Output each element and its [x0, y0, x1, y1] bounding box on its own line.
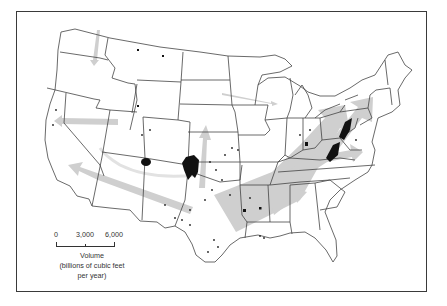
legend-title: Volume	[44, 251, 140, 261]
scale-tick-0: 0	[54, 230, 58, 239]
scale-bar-tick	[114, 242, 115, 247]
state-line	[181, 56, 230, 80]
state-line	[132, 84, 137, 113]
state-line	[175, 170, 188, 226]
production-area-ohio	[305, 142, 308, 146]
state-line	[255, 85, 258, 105]
production-area-louisiana-2	[259, 207, 262, 210]
production-area-wyoming	[137, 105, 139, 107]
scale-tick-labels: 0 3,000 6,000	[44, 230, 154, 240]
state-line	[188, 105, 238, 132]
us-outline	[45, 29, 412, 262]
scale-bar	[44, 241, 154, 247]
state-line	[145, 120, 190, 165]
legend-units-line2: per year)	[44, 271, 140, 281]
lake-michigan	[287, 78, 293, 118]
production-area-montana-2	[162, 55, 164, 57]
state-line	[105, 38, 137, 130]
scale-tick-3000: 3,000	[76, 230, 94, 239]
state-line	[60, 52, 108, 60]
michigan-lp	[295, 85, 312, 118]
state-line	[143, 82, 181, 158]
scale-legend: 0 3,000 6,000 Volume (billions of cubic …	[44, 230, 154, 281]
production-area-colorado-west	[141, 158, 151, 166]
state-line	[96, 100, 137, 112]
lake-ontario	[345, 95, 358, 100]
state-line	[137, 52, 183, 82]
production-area-montana-1	[137, 49, 139, 51]
scale-tick-6000: 6,000	[105, 230, 123, 239]
state-line	[64, 93, 104, 176]
state-line	[315, 180, 345, 210]
production-area-louisiana-1	[243, 209, 246, 212]
state-line	[385, 60, 388, 85]
state-line	[376, 88, 392, 105]
flow-arrow-dakota-lakes	[222, 93, 278, 106]
legend-units-line1: (billions of cubic feet	[44, 261, 140, 271]
state-line	[265, 118, 287, 162]
state-line	[47, 88, 100, 100]
flow-arrows	[54, 30, 373, 232]
state-line	[180, 80, 232, 105]
scale-caption: Volume (billions of cubic feet per year)	[44, 251, 140, 281]
scale-bar-tick	[85, 244, 86, 247]
scale-bar-tick	[56, 242, 57, 247]
state-line	[290, 222, 292, 234]
